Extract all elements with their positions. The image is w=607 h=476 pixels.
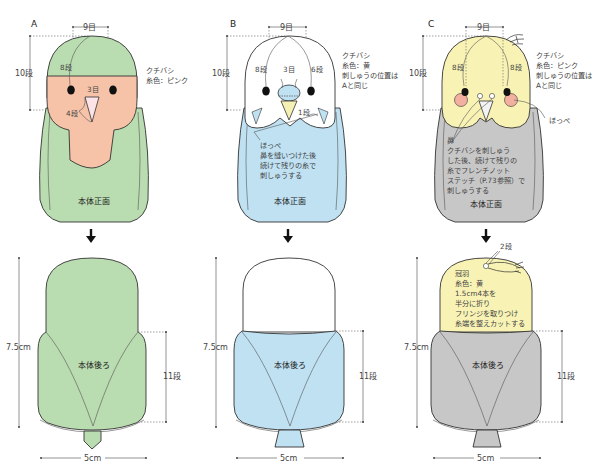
note-line: クチバシ: [536, 51, 564, 60]
body-note-line: クチバシを刺しゅう: [447, 146, 510, 155]
body-note-line: 刺しゅうする: [447, 186, 489, 195]
note-line: クチバシ: [342, 51, 370, 60]
body-note-line: 続けて残りの糸で: [260, 161, 316, 170]
beak-rows-label: 4段: [66, 109, 78, 118]
side-rows-label: 11段: [359, 371, 377, 381]
crest-note-line: フリンジを取りつけ: [455, 309, 518, 318]
side-rows-label: 11段: [163, 371, 181, 381]
eye-icon: [462, 88, 469, 96]
note-line: 刺しゅうの位置は: [342, 71, 398, 80]
beak-width-label: 3目: [87, 85, 99, 94]
panel-b: B 9目 10段 8段 3目 6段 1段 ほっぺ 鼻を縫いつ: [203, 19, 398, 463]
panel-c: C 9目 10段 8段 8段 ほっぺ 鼻 クチ: [404, 19, 592, 463]
body-note-line: ステッチ（P.73参照）で: [447, 176, 525, 185]
note-line: Aと同じ: [342, 81, 368, 90]
diagram-canvas: A 9目 10段 8段 3目 4段 本体正面 クチバシ 糸色: [0, 0, 607, 476]
side-rows-label: 11段: [557, 371, 575, 381]
bird-b-back-head: [243, 258, 335, 332]
eye-icon: [262, 87, 270, 96]
crest-attach-point: [483, 263, 488, 268]
back-height-label: 7.5cm: [404, 343, 429, 352]
body-note-line: 鼻を縫いつけた後: [260, 151, 316, 160]
width-label: 9目: [280, 23, 293, 32]
body-front-label: 本体正面: [470, 199, 502, 209]
nostril-icon: [477, 93, 482, 98]
eye-icon: [67, 86, 75, 95]
eye-icon: [504, 88, 511, 96]
body-note-line: ほっぺ: [260, 141, 281, 150]
bird-b-back-body: [234, 331, 344, 430]
nostril-icon: [489, 93, 494, 98]
height-label: 10段: [212, 68, 230, 78]
body-note-line: 刺しゅうする: [260, 171, 302, 180]
bird-a-back-body: [38, 258, 146, 430]
tail: [275, 430, 304, 447]
body-note-line: した後、続けて残りの: [447, 156, 517, 165]
eye-rows-label-left: 8段: [255, 65, 267, 74]
eye-rows-label-left: 8段: [452, 63, 464, 72]
body-back-label: 本体後ろ: [472, 360, 504, 370]
crest-note-line: 冠羽: [455, 269, 469, 278]
height-label: 10段: [15, 68, 33, 78]
back-height-label: 7.5cm: [203, 343, 228, 352]
cere: [278, 85, 300, 101]
body-note-line: 鼻: [447, 136, 454, 145]
tail: [473, 430, 501, 447]
crest-note-line: 糸色：黄: [455, 279, 483, 288]
beak-width-label: 3目: [283, 65, 295, 74]
crest-note-line: 糸端を整えカットする: [455, 319, 525, 328]
panel-a: A 9目 10段 8段 3目 4段 本体正面 クチバシ 糸色: [6, 19, 188, 463]
width-label: 9目: [477, 23, 490, 32]
note-line: クチバシ: [146, 66, 174, 75]
back-width-label: 5cm: [84, 454, 101, 463]
body-front-label: 本体正面: [78, 196, 110, 206]
note-line: 刺しゅうの位置は: [536, 71, 592, 80]
body-back-label: 本体後ろ: [78, 360, 110, 370]
panel-letter-a: A: [31, 19, 38, 29]
body-front-label: 本体正面: [274, 196, 306, 206]
eye-icon: [109, 86, 117, 95]
back-width-label: 5cm: [477, 454, 494, 463]
cheek-label: ほっぺ: [549, 116, 570, 125]
note-line: 糸色：黄: [342, 61, 370, 70]
note-line: 糸色：ピンク: [146, 76, 188, 85]
eye-rows-label-right: 8段: [510, 63, 522, 72]
width-label: 9目: [83, 23, 96, 32]
eye-rows-label: 8段: [60, 63, 72, 72]
panel-letter-c: C: [428, 19, 434, 29]
arrow-down-icon: [86, 236, 96, 243]
body-note-line: 糸でフレンチノット: [447, 166, 510, 175]
cheek-rows-label: 1段: [298, 108, 310, 117]
arrow-down-icon: [283, 236, 293, 243]
body-back-label: 本体後ろ: [274, 360, 306, 370]
crest-rows-label: 2段: [500, 242, 512, 251]
note-line: 糸色：ピンク: [536, 61, 578, 70]
crest-note-line: 1.5cm4本を: [455, 289, 496, 298]
eye-rows-label-right: 6段: [311, 65, 323, 74]
back-width-label: 5cm: [280, 454, 297, 463]
note-line: Aと同じ: [536, 81, 562, 90]
arrow-down-icon: [481, 236, 491, 243]
crest-note-line: 半分に折り: [455, 299, 490, 308]
bird-c-back-body: [431, 331, 541, 430]
height-label: 10段: [409, 68, 427, 78]
eye-icon: [307, 87, 315, 96]
tail: [84, 431, 101, 449]
panel-letter-b: B: [230, 19, 236, 29]
back-height-label: 7.5cm: [6, 343, 31, 352]
